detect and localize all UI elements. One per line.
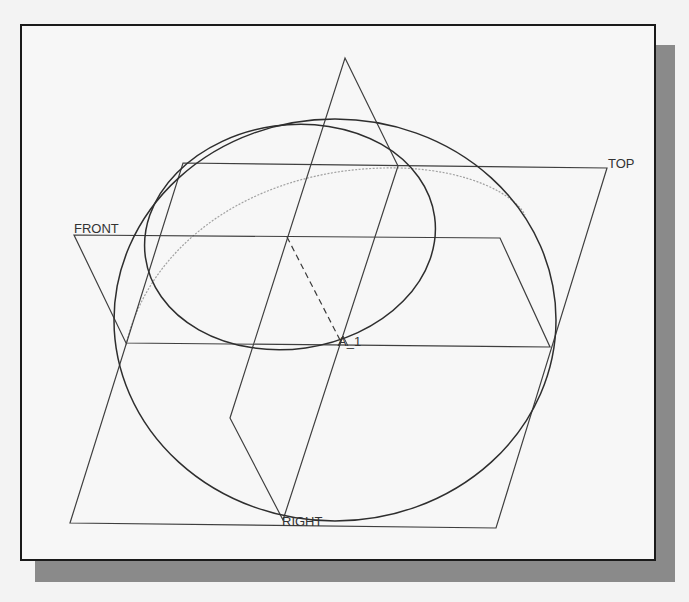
construction-line [287,237,340,340]
model-drawing[interactable]: TOP FRONT RIGHT A_1 [0,0,689,602]
datum-label-right: RIGHT [282,514,323,529]
canvas-stage: TOP FRONT RIGHT A_1 [0,0,689,602]
datum-axis-label: A_1 [338,334,361,349]
datum-plane-right[interactable] [230,58,398,520]
hidden-edge-arc [126,168,525,345]
datum-label-top: TOP [608,156,635,171]
datum-label-front: FRONT [74,221,119,236]
outer-ellipse[interactable] [114,119,556,521]
